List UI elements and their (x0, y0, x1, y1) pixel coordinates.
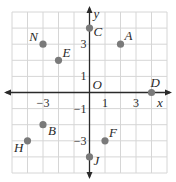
point-f-label: F (108, 125, 118, 140)
y-tick-label: −3 (74, 134, 87, 148)
coordinate-plane: xyO −31331−1−3 ABCDEFHJN (0, 0, 176, 182)
x-axis-left-arrow-icon (4, 90, 11, 96)
x-tick-label: 1 (102, 96, 108, 110)
y-tick-label: −1 (74, 102, 87, 116)
point-e-dot-icon (55, 57, 62, 64)
x-tick-label: 3 (133, 96, 139, 110)
coordinate-grid-svg: xyO −31331−1−3 ABCDEFHJN (0, 0, 176, 182)
x-axis-label: x (156, 95, 163, 110)
x-axis-right-arrow-icon (165, 90, 172, 96)
x-tick-label: −3 (37, 96, 50, 110)
y-axis-up-arrow-icon (87, 6, 93, 13)
point-n-dot-icon (39, 41, 46, 48)
point-f-dot-icon (101, 137, 108, 144)
origin-label: O (93, 77, 103, 92)
y-tick-label: 1 (81, 69, 87, 83)
point-e-label: E (62, 45, 71, 60)
point-d-label: D (150, 75, 161, 90)
point-h-dot-icon (24, 137, 31, 144)
point-a-label: A (124, 28, 133, 43)
point-b-dot-icon (39, 121, 46, 128)
point-h-label: H (13, 140, 24, 155)
y-axis-down-arrow-icon (87, 172, 93, 179)
point-a-dot-icon (117, 41, 124, 48)
y-tick-label: 3 (81, 37, 87, 51)
point-d-dot-icon (148, 89, 155, 96)
point-n-label: N (28, 29, 39, 44)
point-b-label: B (48, 123, 56, 138)
y-axis-label: y (92, 6, 100, 21)
point-j-dot-icon (86, 153, 93, 160)
point-j-label: J (94, 153, 101, 168)
point-c-dot-icon (86, 25, 93, 32)
point-c-label: C (94, 24, 103, 39)
